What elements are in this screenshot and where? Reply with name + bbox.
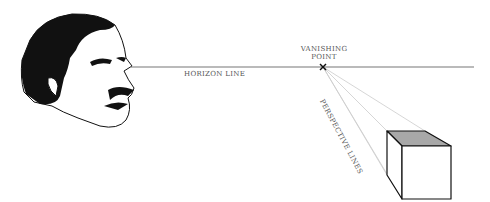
vanishing-point-label-line1: VANISHING — [297, 45, 351, 53]
perspective-diagram: VANISHING POINT HORIZON LINE PERSPECTIVE… — [0, 0, 490, 202]
cube — [387, 131, 451, 199]
vanishing-point-label: VANISHING POINT — [297, 45, 351, 61]
diagram-svg — [0, 0, 490, 202]
vanishing-point-label-line2: POINT — [297, 53, 351, 61]
horizon-line-label: HORIZON LINE — [184, 70, 245, 78]
face-illustration — [21, 14, 134, 127]
cube-front-face — [402, 146, 451, 199]
